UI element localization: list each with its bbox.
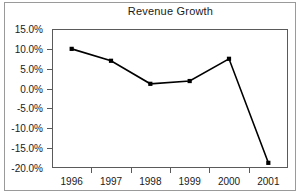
y-axis-tick-mark — [47, 49, 52, 50]
x-axis-tick-label: 2000 — [218, 176, 240, 187]
x-axis-tick-label: 1996 — [61, 176, 83, 187]
x-axis-tick-mark — [131, 168, 132, 173]
x-axis-labels: 199619971998199920002001 — [52, 172, 288, 190]
data-point-markers — [70, 47, 271, 165]
y-axis-tick-mark — [47, 128, 52, 129]
y-axis-tick-label: 15.0% — [15, 24, 43, 35]
y-axis-tick-mark — [47, 89, 52, 90]
x-axis-tick-mark — [170, 168, 171, 173]
chart-figure: Revenue Growth 15.0%10.0%5.0%0.0%-5.0%-1… — [0, 0, 304, 195]
x-axis-tick-label: 1997 — [100, 176, 122, 187]
y-axis-tick-label: -15.0% — [11, 143, 43, 154]
data-point-1996 — [70, 47, 74, 51]
data-point-1997 — [109, 59, 113, 63]
x-axis-tick-label: 1999 — [179, 176, 201, 187]
y-axis-tick-label: -10.0% — [11, 123, 43, 134]
y-axis-tick-mark — [47, 148, 52, 149]
data-point-1998 — [148, 82, 152, 86]
x-axis-tick-label: 1998 — [139, 176, 161, 187]
data-point-2001 — [266, 161, 270, 165]
y-axis-tick-mark — [47, 108, 52, 109]
y-axis-labels: 15.0%10.0%5.0%0.0%-5.0%-10.0%-15.0%-20.0… — [0, 29, 48, 168]
y-axis-tick-label: 5.0% — [20, 63, 43, 74]
data-point-1999 — [188, 79, 192, 83]
y-axis-tick-label: 0.0% — [20, 83, 43, 94]
y-axis-tick-label: 10.0% — [15, 43, 43, 54]
y-axis-tick-label: -5.0% — [17, 103, 43, 114]
x-axis-tick-mark — [209, 168, 210, 173]
y-axis-tick-label: -20.0% — [11, 163, 43, 174]
data-point-2000 — [227, 57, 231, 61]
chart-title: Revenue Growth — [52, 5, 289, 17]
x-axis-tick-label: 2001 — [257, 176, 279, 187]
x-axis-tick-mark — [91, 168, 92, 173]
line-series-revenue-growth — [72, 49, 269, 163]
series-layer — [52, 29, 288, 168]
y-axis-tick-mark — [47, 69, 52, 70]
x-axis-tick-mark — [249, 168, 250, 173]
